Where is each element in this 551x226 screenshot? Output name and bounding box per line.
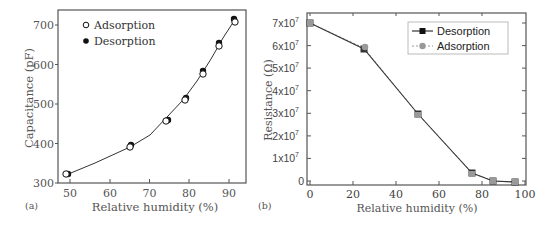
svg-text:2x107: 2x107 [272,129,299,142]
legend-label-desorption-b: Desorption [437,25,490,37]
x-axis-label-a: Relative humidity (%) [92,200,218,214]
svg-text:60: 60 [103,187,117,200]
legend-label-adsorption-a: Adsorption [93,19,155,32]
legend-b: Desorption Adsorption [408,22,508,54]
x-tick-labels-b: 0 20 40 60 80 100 [307,188,536,201]
svg-text:300: 300 [33,177,54,190]
svg-text:7x107: 7x107 [272,16,299,29]
svg-text:1x107: 1x107 [272,151,299,164]
svg-text:400: 400 [33,138,54,151]
x-ticks-a [70,179,229,183]
svg-text:4x107: 4x107 [272,84,299,97]
panel-a: 300 400 500 600 700 50 60 70 80 90 Relat… [22,10,246,214]
x-tick-labels-a: 50 60 70 80 90 [63,187,236,200]
legend-label-adsorption-b: Adsorption [437,40,490,52]
legend-filled-circle-icon [83,38,89,44]
legend-gray-circle-icon [419,43,425,49]
figure: 300 400 500 600 700 50 60 70 80 90 Relat… [0,0,551,226]
legend-filled-square-icon [420,28,426,34]
svg-text:100: 100 [515,188,536,201]
svg-text:50: 50 [63,187,77,200]
panel-b: 0 1x107 2x107 3x107 4x107 5x107 6x107 7x… [258,13,536,215]
y-axis-label-a: Capacitance (pF) [22,48,36,148]
svg-text:5x107: 5x107 [272,61,299,74]
legend-a: Adsorption Desorption [83,19,155,48]
svg-text:600: 600 [33,59,54,72]
svg-text:90: 90 [222,187,236,200]
y-axis-label-b: Resistance (Ω) [262,59,275,141]
y-tick-labels-a: 300 400 500 600 700 [33,19,54,190]
panel-label-a: (a) [25,200,38,211]
panel-label-b: (b) [258,200,272,211]
svg-text:0: 0 [307,188,314,201]
svg-text:700: 700 [33,19,54,32]
svg-text:20: 20 [346,188,360,201]
svg-text:3x107: 3x107 [272,106,299,119]
svg-text:80: 80 [475,188,489,201]
legend-label-desorption-a: Desorption [94,35,156,48]
x-axis-label-b: Relative humidity (%) [357,202,478,215]
y-tick-labels-b: 0 1x107 2x107 3x107 4x107 5x107 6x107 7x… [272,16,304,187]
svg-text:60: 60 [432,188,446,201]
svg-text:70: 70 [143,187,157,200]
svg-text:6x107: 6x107 [272,39,299,52]
svg-text:80: 80 [182,187,196,200]
legend-open-circle-icon [83,22,89,28]
svg-text:500: 500 [33,98,54,111]
svg-text:0: 0 [298,175,304,187]
svg-text:40: 40 [389,188,403,201]
